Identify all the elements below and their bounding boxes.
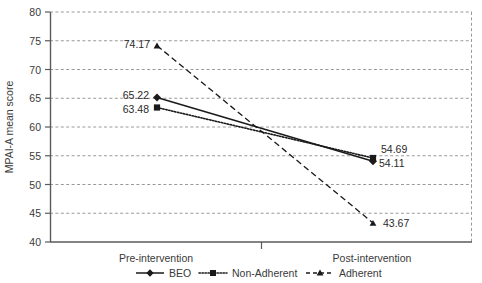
y-tick-label-45: 45: [29, 207, 41, 219]
data-label-beo-pre: 65.22: [123, 89, 149, 101]
legend-marker-diamond-icon: [146, 269, 153, 276]
x-tick-label-post: Post-intervention: [333, 252, 412, 264]
y-tick-label-80: 80: [29, 6, 41, 18]
y-tick-label-70: 70: [29, 64, 41, 76]
y-tick-label-55: 55: [29, 150, 41, 162]
x-tick-label-pre: Pre-intervention: [119, 252, 193, 264]
legend-item-non-adherent[interactable]: Non-Adherent: [199, 267, 297, 279]
legend-label-beo: BEO: [169, 267, 191, 279]
legend-marker-square-icon: [210, 270, 216, 276]
y-tick-label-40: 40: [29, 236, 41, 248]
y-tick-label-60: 60: [29, 121, 41, 133]
y-tick-label-65: 65: [29, 92, 41, 104]
data-label-adherent-post: 43.67: [383, 217, 409, 229]
data-label-non-adherent-pre: 63.48: [123, 103, 149, 115]
data-label-beo-post: 54.11: [379, 157, 405, 169]
chart-legend: BEO Non-Adherent Adherent: [136, 267, 382, 279]
y-tick-label-50: 50: [29, 179, 41, 191]
data-label-non-adherent-post: 54.69: [381, 143, 407, 155]
data-label-adherent-pre: 74.17: [124, 38, 150, 50]
y-axis-title: MPAI-A mean score: [3, 81, 15, 174]
chart-container: 80 75 70 65 60 55 50 45 40 MPAI-A mean s…: [0, 0, 482, 283]
legend-item-adherent[interactable]: Adherent: [306, 267, 382, 279]
legend-item-beo[interactable]: BEO: [136, 267, 191, 279]
line-chart: 80 75 70 65 60 55 50 45 40 MPAI-A mean s…: [0, 0, 482, 283]
y-tick-label-75: 75: [29, 35, 41, 47]
y-axis-ticks: [45, 12, 50, 242]
legend-label-non-adherent: Non-Adherent: [232, 267, 297, 279]
series-marker-non-adherent-pre: [154, 104, 160, 110]
legend-label-adherent: Adherent: [339, 267, 382, 279]
